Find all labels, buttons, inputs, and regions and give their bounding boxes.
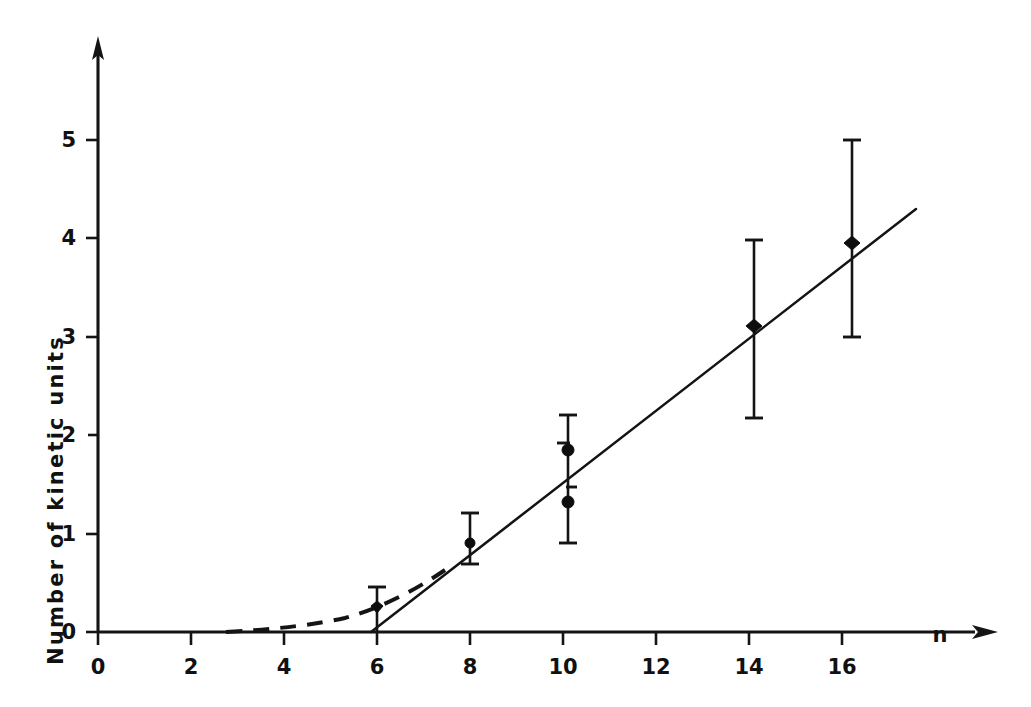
x-axis-title: n [933, 623, 948, 647]
errorbar-group-n8 [461, 513, 479, 564]
x-tick-label-16: 16 [827, 655, 856, 679]
y-tick-label-5: 5 [61, 128, 76, 152]
x-axis [98, 625, 998, 645]
data-point-n10-lower [562, 496, 574, 508]
data-point-n8 [465, 538, 475, 548]
data-point-n16 [844, 236, 860, 250]
y-tick-label-4: 4 [61, 226, 76, 250]
x-tick-label-10: 10 [548, 655, 577, 679]
x-tick-label-12: 12 [641, 655, 670, 679]
x-axis-arrow-icon [972, 625, 998, 639]
y-axis [86, 36, 104, 632]
chart-canvas [0, 0, 1031, 707]
x-tick-label-2: 2 [184, 655, 199, 679]
linear-fit-line [371, 209, 916, 632]
chart-figure: 5 4 3 2 1 0 0 2 4 6 8 10 12 14 16 n Numb… [0, 0, 1031, 707]
errorbar-group-n10 [557, 415, 577, 543]
errorbar-group-n16 [843, 140, 861, 337]
y-axis-title: Number of kinetic units [44, 335, 68, 665]
x-tick-label-8: 8 [463, 655, 478, 679]
x-tick-label-6: 6 [370, 655, 385, 679]
x-tick-label-4: 4 [277, 655, 292, 679]
data-point-n6 [371, 601, 383, 613]
data-point-n10-upper [562, 444, 574, 456]
x-tick-label-14: 14 [734, 655, 763, 679]
x-tick-label-0: 0 [91, 655, 106, 679]
